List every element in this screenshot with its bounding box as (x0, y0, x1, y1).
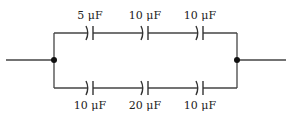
capacitor-bottom-1 (86, 81, 93, 95)
capacitor-bottom-2 (141, 81, 148, 95)
label-top-2: 10 μF (129, 9, 162, 22)
circuit-diagram: 5 μF 10 μF 10 μF 10 μF 20 μF 10 μF (0, 0, 291, 118)
capacitor-top-1 (86, 26, 93, 40)
capacitor-bottom-3 (196, 81, 203, 95)
label-bottom-2: 20 μF (129, 99, 162, 112)
right-junction-node (234, 57, 240, 63)
label-bottom-3: 10 μF (184, 99, 217, 112)
left-junction-node (51, 57, 57, 63)
capacitor-top-2 (141, 26, 148, 40)
label-top-3: 10 μF (184, 9, 217, 22)
capacitor-top-3 (196, 26, 203, 40)
label-bottom-1: 10 μF (74, 99, 107, 112)
label-top-1: 5 μF (77, 9, 103, 22)
